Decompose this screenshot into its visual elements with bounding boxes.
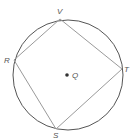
label-t: T	[124, 65, 130, 74]
label-q: Q	[72, 71, 78, 80]
inscribed-quadrilateral-diagram: V R T S Q	[0, 0, 131, 138]
label-r: R	[4, 56, 10, 65]
label-s: S	[53, 131, 59, 138]
center-point-q	[65, 73, 69, 77]
label-v: V	[57, 7, 63, 16]
